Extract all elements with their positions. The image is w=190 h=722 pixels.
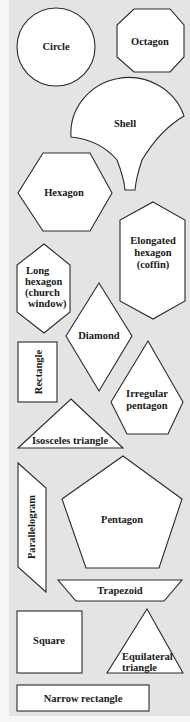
label-isosceles-triangle: Isosceles triangle xyxy=(32,435,108,446)
shape-narrow-rectangle: Narrow rectangle xyxy=(17,685,149,711)
label-rectangle: Rectangle xyxy=(33,350,44,395)
label-long-hexagon-1: Long xyxy=(26,265,50,276)
label-square: Square xyxy=(33,635,65,646)
shape-circle: Circle xyxy=(17,8,95,86)
label-long-hexagon-4: window) xyxy=(28,298,67,310)
label-narrow-rectangle: Narrow rectangle xyxy=(44,693,123,704)
label-circle: Circle xyxy=(42,41,70,52)
label-irregular-pentagon-1: Irregular xyxy=(126,388,168,399)
label-long-hexagon-2: hexagon xyxy=(25,276,63,287)
label-equilateral-triangle-1: Equilateral xyxy=(122,651,173,662)
label-equilateral-triangle-2: triangle xyxy=(122,662,157,673)
shape-octagon: Octagon xyxy=(117,9,184,72)
label-shell: Shell xyxy=(114,118,136,129)
label-pentagon: Pentagon xyxy=(101,514,143,525)
label-diamond: Diamond xyxy=(78,330,120,341)
label-elongated-hexagon-1: Elongated xyxy=(130,235,176,246)
label-hexagon: Hexagon xyxy=(44,187,84,198)
shape-rectangle: Rectangle xyxy=(18,342,57,402)
shapes-diagram: Circle Octagon Shell Hexagon Elongated h… xyxy=(0,0,190,722)
label-irregular-pentagon-2: pentagon xyxy=(126,400,168,411)
label-trapezoid: Trapezoid xyxy=(97,585,142,596)
shape-square: Square xyxy=(17,611,82,673)
label-elongated-hexagon-2: hexagon xyxy=(134,247,172,258)
shape-elongated-hexagon: Elongated hexagon (coffin) xyxy=(120,202,185,319)
label-parallelogram: Parallelogram xyxy=(26,495,37,559)
shape-trapezoid: Trapezoid xyxy=(58,580,182,601)
label-octagon: Octagon xyxy=(131,36,169,47)
label-elongated-hexagon-3: (coffin) xyxy=(137,259,170,271)
